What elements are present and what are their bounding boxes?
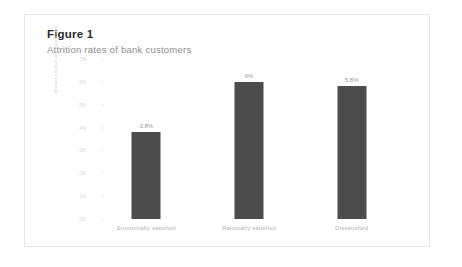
bar[interactable] bbox=[337, 86, 366, 219]
bar-group: 3.8%Emotionally satisfied bbox=[109, 59, 183, 219]
y-axis-tick-label: 1% bbox=[79, 194, 86, 199]
bar-group: 5.8%Dissatisfied bbox=[315, 59, 389, 219]
x-axis-category-label: Rationally satisfied bbox=[222, 225, 276, 231]
bar-series: 3.8%Emotionally satisfied6%Rationally sa… bbox=[95, 59, 403, 219]
y-axis-tick-label: 4% bbox=[79, 125, 86, 130]
y-axis-tick-label: 7% bbox=[79, 57, 86, 62]
y-axis-tick-label: 2% bbox=[79, 171, 86, 176]
bar-value-label: 3.8% bbox=[139, 123, 153, 129]
bar[interactable] bbox=[235, 82, 264, 219]
figure-card: Figure 1 Attrition rates of bank custome… bbox=[24, 14, 430, 247]
y-axis-tick-label: 5% bbox=[79, 102, 86, 107]
y-axis-ticks: 0%1%2%3%4%5%6%7% bbox=[67, 59, 89, 219]
bar[interactable] bbox=[132, 132, 161, 219]
y-axis-tick-label: 0% bbox=[79, 217, 86, 222]
figure-subtitle: Attrition rates of bank customers bbox=[47, 44, 191, 55]
y-axis-tick-label: 6% bbox=[79, 79, 86, 84]
chart-plot-area: Annual attrition per customers 0%1%2%3%4… bbox=[55, 59, 407, 241]
bar-value-label: 5.8% bbox=[345, 77, 359, 83]
bar-value-label: 6% bbox=[245, 73, 254, 79]
x-axis-category-label: Dissatisfied bbox=[335, 225, 368, 231]
bar-group: 6%Rationally satisfied bbox=[212, 59, 286, 219]
y-axis-tick-label: 3% bbox=[79, 148, 86, 153]
y-axis-title: Annual attrition per customers bbox=[53, 0, 58, 93]
x-axis-category-label: Emotionally satisfied bbox=[117, 225, 176, 231]
